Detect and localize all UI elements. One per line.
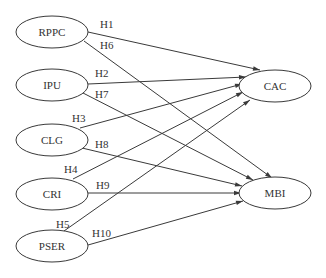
edge-label-h7: H7 (95, 88, 109, 100)
node-label: CRI (43, 188, 62, 200)
path-diagram: RPPCIPUCLGCRIPSERCACMBI H1H6H2H7H3H8H4H9… (0, 0, 326, 278)
arrowhead-icon (253, 66, 260, 70)
edge-h9 (88, 191, 241, 195)
edge-label-h5: H5 (56, 218, 70, 230)
node-label: RPPC (39, 26, 66, 38)
edge-label-h9: H9 (96, 179, 110, 191)
edge-label-h10: H10 (92, 227, 111, 239)
node-clg: CLG (16, 124, 88, 156)
edge-label-h8: H8 (95, 138, 109, 150)
edge-line (84, 41, 272, 178)
edge-line (64, 100, 250, 231)
edge-label-h1: H1 (100, 18, 113, 30)
edge-h10 (88, 201, 243, 245)
edge-h5 (64, 100, 250, 231)
edge-h6 (84, 41, 272, 178)
arrowhead-icon (246, 175, 253, 180)
edge-h1 (88, 32, 260, 71)
node-cac: CAC (239, 70, 311, 102)
arrowhead-icon (235, 182, 242, 186)
node-label: CAC (264, 80, 287, 92)
edge-label-h4: H4 (64, 163, 78, 175)
edge-line (88, 77, 246, 84)
edge-line (88, 32, 260, 70)
edge-label-h2: H2 (95, 67, 108, 79)
node-ipu: IPU (16, 69, 88, 101)
edge-h2 (88, 75, 246, 84)
node-label: PSER (39, 240, 66, 252)
arrowhead-icon (236, 201, 243, 205)
node-mbi: MBI (239, 177, 311, 209)
arrowhead-icon (243, 100, 250, 106)
node-label: IPU (43, 79, 61, 91)
node-rppc: RPPC (16, 16, 88, 48)
node-label: MBI (265, 187, 286, 199)
edge-label-h3: H3 (72, 112, 86, 124)
edge-label-h6: H6 (100, 39, 114, 51)
edge-h7 (83, 93, 253, 180)
edge-line (88, 201, 243, 245)
node-cri: CRI (16, 178, 88, 210)
node-pser: PSER (16, 230, 88, 262)
node-label: CLG (41, 134, 63, 146)
edge-line (83, 93, 253, 180)
